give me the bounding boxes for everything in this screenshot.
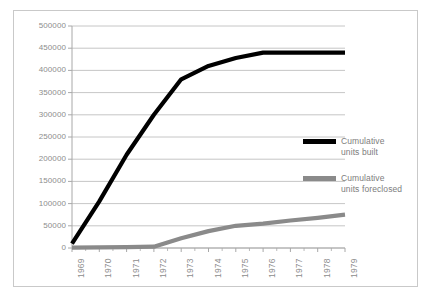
y-tick-label-350000: 350000 [20,88,66,97]
x-tick-label-1975: 1975 [240,258,250,278]
x-tick-label-1977: 1977 [294,258,304,278]
x-tick-label-1971: 1971 [131,258,141,278]
x-tick-label-1979: 1979 [349,258,359,278]
y-tick-label-300000: 300000 [20,110,66,119]
x-tick-label-1976: 1976 [267,258,277,278]
legend-label-built-line2: units built [341,147,378,157]
legend-swatch-foreclosed [303,176,336,181]
legend-label-foreclosed: Cumulative units foreclosed [341,173,402,195]
legend-label-foreclosed-line2: units foreclosed [341,184,402,194]
legend-item-cumulative-units-foreclosed: Cumulative units foreclosed [303,173,407,195]
y-tick-label-450000: 450000 [20,43,66,52]
x-tick-label-1972: 1972 [158,258,168,278]
legend-label-built: Cumulative units built [341,136,385,158]
y-tick-label-50000: 50000 [20,221,66,230]
y-tick-label-200000: 200000 [20,154,66,163]
x-tick-label-1978: 1978 [322,258,332,278]
y-tick-label-150000: 150000 [20,176,66,185]
y-tick-marks-group [68,26,72,248]
y-tick-label-500000: 500000 [20,21,66,30]
y-tick-label-100000: 100000 [20,199,66,208]
y-tick-label-400000: 400000 [20,65,66,74]
y-tick-label-0: 0 [20,243,66,252]
y-tick-label-250000: 250000 [20,132,66,141]
legend-item-cumulative-units-built: Cumulative units built [303,136,407,158]
x-tick-label-1970: 1970 [103,258,113,278]
series-line-1 [72,215,345,248]
legend-label-built-line1: Cumulative [341,136,385,146]
legend-swatch-built [303,139,336,144]
x-tick-label-1974: 1974 [213,258,223,278]
x-tick-label-1969: 1969 [76,258,86,278]
chart-figure: 0500001000001500002000002500003000003500… [0,0,435,307]
chart-legend: Cumulative units built Cumulative units … [303,136,407,210]
legend-label-foreclosed-line1: Cumulative [341,173,385,183]
x-tick-label-1973: 1973 [185,258,195,278]
